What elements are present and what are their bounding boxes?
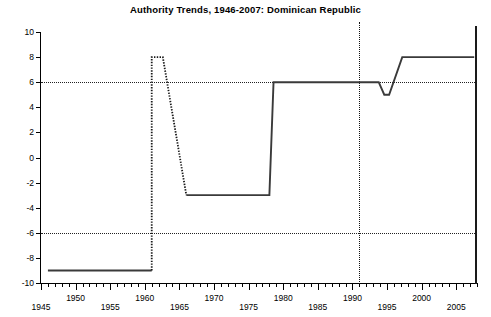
- x-tick-1979: [276, 283, 277, 287]
- x-tick-2002: [435, 283, 436, 287]
- x-tick-1948: [62, 283, 63, 287]
- x-tick-1975: [249, 283, 250, 290]
- x-tick-1986: [325, 283, 326, 287]
- x-tick-1964: [172, 283, 173, 287]
- x-tick-2001: [429, 283, 430, 287]
- x-tick-1965: [179, 283, 180, 290]
- x-tick-1969: [207, 283, 208, 287]
- x-tick-1983: [304, 283, 305, 287]
- x-axis-label-1995: 1995: [378, 303, 397, 312]
- y-axis-label--6: -6: [26, 229, 34, 238]
- x-tick-1949: [69, 283, 70, 287]
- x-axis-label-1975: 1975: [239, 303, 258, 312]
- x-tick-1974: [242, 283, 243, 287]
- x-tick-1945: [41, 283, 42, 290]
- x-tick-1952: [89, 283, 90, 287]
- x-tick-1959: [138, 283, 139, 287]
- x-tick-1961: [152, 283, 153, 287]
- x-tick-1950: [76, 283, 77, 290]
- x-tick-1954: [103, 283, 104, 287]
- x-tick-2006: [463, 283, 464, 287]
- x-axis-label-1970: 1970: [205, 294, 224, 303]
- x-tick-1960: [145, 283, 146, 290]
- x-tick-2005: [456, 283, 457, 290]
- x-tick-1982: [297, 283, 298, 287]
- x-tick-1947: [55, 283, 56, 287]
- x-tick-1990: [352, 283, 353, 290]
- x-tick-1968: [200, 283, 201, 287]
- x-tick-2004: [449, 283, 450, 287]
- x-tick-1967: [193, 283, 194, 287]
- y-axis-label--10: -10: [22, 279, 34, 288]
- x-tick-1946: [48, 283, 49, 287]
- chart-title: Authority Trends, 1946-2007: Dominican R…: [0, 4, 491, 15]
- x-axis-label-1985: 1985: [308, 303, 327, 312]
- x-tick-1994: [380, 283, 381, 287]
- x-tick-1999: [415, 283, 416, 287]
- x-axis-label-1960: 1960: [135, 294, 154, 303]
- x-axis-label-1980: 1980: [274, 294, 293, 303]
- x-tick-1985: [318, 283, 319, 290]
- x-tick-1956: [117, 283, 118, 287]
- x-axis-label-1945: 1945: [32, 303, 51, 312]
- chart-container: Authority Trends, 1946-2007: Dominican R…: [0, 0, 491, 317]
- x-tick-1998: [408, 283, 409, 287]
- x-tick-1955: [110, 283, 111, 290]
- y-axis-label-10: 10: [25, 28, 34, 37]
- x-tick-1973: [235, 283, 236, 287]
- x-tick-2007: [470, 283, 471, 287]
- y-axis-label--8: -8: [26, 254, 34, 263]
- y-axis-label-4: 4: [29, 103, 34, 112]
- series-0-segment-2: [186, 57, 474, 195]
- x-tick-1980: [283, 283, 284, 290]
- x-tick-1984: [311, 283, 312, 287]
- series-layer: [41, 32, 477, 283]
- x-tick-1987: [332, 283, 333, 287]
- y-axis-label--2: -2: [26, 179, 34, 188]
- y-axis-label--4: -4: [26, 204, 34, 213]
- x-tick-1992: [366, 283, 367, 287]
- x-tick-1976: [256, 283, 257, 287]
- x-axis-label-2000: 2000: [412, 294, 431, 303]
- x-tick-2000: [422, 283, 423, 290]
- y-axis-label-8: 8: [29, 53, 34, 62]
- x-tick-1996: [394, 283, 395, 287]
- series-0-segment-1: [152, 57, 187, 270]
- x-tick-2003: [442, 283, 443, 287]
- x-tick-1966: [186, 283, 187, 287]
- plot-area: 1086420-2-4-6-8-10 194519501955196019651…: [41, 32, 477, 283]
- x-tick-1958: [131, 283, 132, 287]
- x-tick-1970: [214, 283, 215, 290]
- y-axis-label-2: 2: [29, 128, 34, 137]
- x-axis-line: [40, 283, 478, 284]
- x-tick-1962: [159, 283, 160, 287]
- x-tick-1997: [401, 283, 402, 287]
- x-axis-label-1965: 1965: [170, 303, 189, 312]
- x-tick-1971: [221, 283, 222, 287]
- x-axis-label-1990: 1990: [343, 294, 362, 303]
- x-tick-1963: [166, 283, 167, 287]
- x-tick-1972: [228, 283, 229, 287]
- x-tick-1981: [290, 283, 291, 287]
- x-axis-label-1950: 1950: [66, 294, 85, 303]
- x-tick-1978: [269, 283, 270, 287]
- x-tick-1957: [124, 283, 125, 287]
- x-tick-1977: [262, 283, 263, 287]
- x-axis-label-2005: 2005: [447, 303, 466, 312]
- x-tick-1951: [83, 283, 84, 287]
- y-axis-label-6: 6: [29, 78, 34, 87]
- x-axis-label-1955: 1955: [101, 303, 120, 312]
- x-tick-2008: [477, 283, 478, 287]
- x-tick-1995: [387, 283, 388, 290]
- x-tick-1988: [339, 283, 340, 287]
- x-tick-1953: [96, 283, 97, 287]
- x-tick-1993: [373, 283, 374, 287]
- y-axis-label-0: 0: [29, 154, 34, 163]
- x-tick-1989: [346, 283, 347, 287]
